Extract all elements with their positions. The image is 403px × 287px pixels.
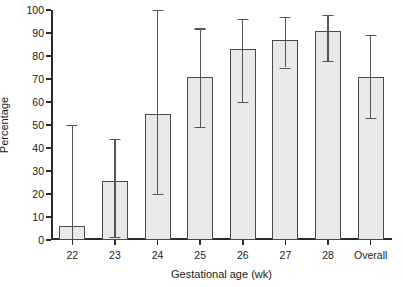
error-bar-stem xyxy=(285,17,286,68)
x-tick-label: 24 xyxy=(152,250,164,261)
error-bar-cap-upper xyxy=(152,10,163,11)
y-tick-mark xyxy=(46,78,51,79)
y-tick-mark xyxy=(46,101,51,102)
error-bar-stem xyxy=(327,15,328,61)
x-tick-label: Overall xyxy=(354,250,387,261)
y-tick-label: 70 xyxy=(32,74,44,85)
y-tick-label: 60 xyxy=(32,97,44,108)
error-bar-stem xyxy=(157,10,158,194)
error-bar-cap-upper xyxy=(280,17,291,18)
bar xyxy=(315,31,341,240)
x-tick-label: 27 xyxy=(280,250,292,261)
y-tick-label: 30 xyxy=(32,166,44,177)
error-bar-stem xyxy=(72,125,73,240)
y-tick-mark xyxy=(46,170,51,171)
x-tick-label: 22 xyxy=(66,250,78,261)
error-bar-cap-upper xyxy=(365,35,376,36)
y-tick-label: 10 xyxy=(32,212,44,223)
x-tick-mark xyxy=(242,240,243,245)
error-bar-cap-upper xyxy=(237,19,248,20)
x-tick-label: 26 xyxy=(237,250,249,261)
x-tick-mark xyxy=(72,240,73,245)
error-bar-cap-upper xyxy=(67,125,78,126)
x-tick-mark xyxy=(285,240,286,245)
bar xyxy=(272,40,298,240)
y-tick-label: 80 xyxy=(32,51,44,62)
y-axis-title: Percentage xyxy=(0,97,10,153)
x-tick-mark xyxy=(199,240,200,245)
x-tick-mark xyxy=(157,240,158,245)
y-tick-mark xyxy=(46,239,51,240)
error-bar-cap-upper xyxy=(109,139,120,140)
error-bar-stem xyxy=(114,139,115,237)
x-tick-mark xyxy=(327,240,328,245)
x-tick-label: 23 xyxy=(109,250,121,261)
y-tick-label: 20 xyxy=(32,189,44,200)
error-bar-stem xyxy=(200,28,201,127)
y-tick-label: 0 xyxy=(38,235,44,246)
error-bar-cap-lower xyxy=(109,237,120,238)
y-tick-mark xyxy=(46,55,51,56)
error-bar-stem xyxy=(242,19,243,102)
error-bar-cap-lower xyxy=(280,68,291,69)
y-tick-mark xyxy=(46,124,51,125)
y-tick-mark xyxy=(46,216,51,217)
error-bar-cap-lower xyxy=(323,61,334,62)
error-bar-cap-lower xyxy=(195,127,206,128)
error-bar-cap-lower xyxy=(152,194,163,195)
error-bar-cap-upper xyxy=(195,28,206,29)
y-tick-label: 90 xyxy=(32,28,44,39)
error-bar-stem xyxy=(370,35,371,118)
y-axis-line xyxy=(51,10,53,240)
x-tick-mark xyxy=(370,240,371,245)
x-tick-label: 25 xyxy=(194,250,206,261)
y-tick-label: 50 xyxy=(32,120,44,131)
y-tick-label: 40 xyxy=(32,143,44,154)
x-axis-title: Gestational age (wk) xyxy=(51,268,392,280)
y-tick-label: 100 xyxy=(26,5,44,16)
error-bar-cap-upper xyxy=(323,15,334,16)
y-tick-mark xyxy=(46,32,51,33)
y-tick-mark xyxy=(46,147,51,148)
error-bar-cap-lower xyxy=(237,102,248,103)
plot-area: 0102030405060708090100 22232425262728Ove… xyxy=(51,10,392,240)
y-tick-mark xyxy=(46,9,51,10)
x-tick-label: 28 xyxy=(322,250,334,261)
figure-canvas: Percentage 0102030405060708090100 222324… xyxy=(0,0,403,287)
y-tick-mark xyxy=(46,193,51,194)
error-bar-cap-lower xyxy=(365,118,376,119)
x-tick-mark xyxy=(114,240,115,245)
